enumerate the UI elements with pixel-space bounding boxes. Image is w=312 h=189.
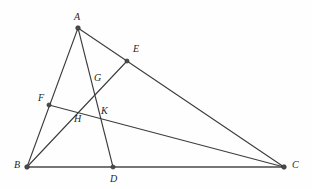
segment-ad — [78, 28, 113, 167]
figure-canvas — [0, 0, 312, 189]
vertex-dots-layer — [25, 26, 287, 170]
point-dot-d — [111, 165, 115, 169]
point-dot-e — [125, 59, 129, 63]
point-label-b: B — [14, 160, 20, 170]
point-label-d: D — [110, 174, 117, 184]
point-label-c: C — [292, 160, 299, 170]
geometry-figure: ABCDEFGHK — [0, 0, 312, 189]
segments-layer — [27, 28, 284, 167]
point-label-h: H — [74, 114, 81, 124]
segment-ac — [78, 28, 284, 167]
segment-fc — [49, 105, 284, 167]
point-label-f: F — [38, 93, 44, 103]
point-label-g: G — [94, 73, 101, 83]
point-dot-b — [25, 165, 30, 170]
point-label-a: A — [74, 12, 80, 22]
point-dot-a — [76, 26, 81, 31]
segment-ab — [27, 28, 78, 167]
point-label-k: K — [101, 106, 108, 116]
point-label-e: E — [133, 44, 139, 54]
point-dot-f — [47, 103, 51, 107]
point-dot-c — [282, 165, 287, 170]
